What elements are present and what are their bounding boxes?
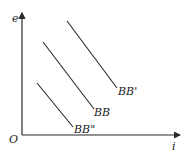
- origin-label: O: [9, 133, 18, 146]
- curve-label-bb-prime: BB': [117, 85, 137, 98]
- x-axis-label: i: [172, 140, 176, 153]
- curve-bb-double-prime: [37, 83, 73, 127]
- curve-bb-prime: [67, 21, 117, 88]
- diagram-canvas: e i O BB' BB BB": [0, 0, 191, 156]
- curve-label-bb-double-prime: BB": [73, 123, 95, 136]
- curve-label-bb: BB: [93, 106, 110, 119]
- y-axis-label: e: [12, 12, 19, 25]
